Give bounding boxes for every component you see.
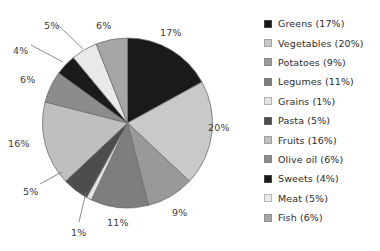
pie-slice-percent-label: 9%: [172, 207, 187, 218]
pie-slice-percent-label: 6%: [20, 74, 35, 85]
legend-item[interactable]: Grains (1%): [264, 92, 380, 111]
pie-slices: [42, 38, 212, 208]
label-leader-line: [40, 172, 62, 184]
legend-item-label: Pasta (5%): [278, 115, 330, 126]
legend-item[interactable]: Greens (17%): [264, 14, 380, 33]
legend-item-label: Olive oil (6%): [278, 154, 343, 165]
legend-item[interactable]: Sweets (4%): [264, 169, 380, 188]
pie-slice-percent-label: 1%: [71, 227, 86, 238]
pie-slice-percent-label: 4%: [13, 45, 28, 56]
legend-item-label: Fish (6%): [278, 212, 323, 223]
legend-swatch-icon: [264, 78, 272, 86]
legend-item[interactable]: Pasta (5%): [264, 111, 380, 130]
pie-slice-percent-label: 16%: [8, 138, 30, 149]
pie-slice-percent-label: 5%: [44, 20, 59, 31]
legend-item-label: Vegetables (20%): [278, 38, 364, 49]
legend-item[interactable]: Meat (5%): [264, 189, 380, 208]
legend-swatch-icon: [264, 39, 272, 47]
legend-item[interactable]: Potatoes (9%): [264, 53, 380, 72]
label-leader-line: [57, 24, 83, 49]
label-leader-line: [79, 192, 86, 222]
legend-item[interactable]: Fish (6%): [264, 208, 380, 227]
legend-item-label: Grains (1%): [278, 96, 335, 107]
pie-slice-percent-label: 6%: [96, 20, 111, 31]
pie-chart-area: 17%20%9%11%1%5%16%6%4%5%6%: [0, 0, 250, 251]
legend-swatch-icon: [264, 194, 272, 202]
chart-legend: Greens (17%)Vegetables (20%)Potatoes (9%…: [264, 14, 380, 227]
legend-item-label: Potatoes (9%): [278, 57, 346, 68]
pie-slice-percent-label: 20%: [208, 122, 230, 133]
label-leader-line: [31, 45, 63, 62]
legend-swatch-icon: [264, 20, 272, 28]
legend-item[interactable]: Fruits (16%): [264, 130, 380, 149]
legend-item-label: Sweets (4%): [278, 173, 339, 184]
legend-item-label: Meat (5%): [278, 193, 328, 204]
legend-item[interactable]: Olive oil (6%): [264, 150, 380, 169]
legend-item-label: Fruits (16%): [278, 135, 337, 146]
legend-item-label: Greens (17%): [278, 18, 344, 29]
legend-swatch-icon: [264, 97, 272, 105]
legend-swatch-icon: [264, 155, 272, 163]
pie-slice-percent-label: 11%: [107, 217, 129, 228]
legend-swatch-icon: [264, 117, 272, 125]
pie-slice-percent-label: 5%: [23, 186, 38, 197]
legend-swatch-icon: [264, 175, 272, 183]
legend-item-label: Legumes (11%): [278, 76, 354, 87]
legend-item[interactable]: Vegetables (20%): [264, 33, 380, 52]
pie-slice-percent-label: 17%: [160, 27, 182, 38]
legend-item[interactable]: Legumes (11%): [264, 72, 380, 91]
legend-swatch-icon: [264, 136, 272, 144]
legend-swatch-icon: [264, 214, 272, 222]
legend-swatch-icon: [264, 58, 272, 66]
